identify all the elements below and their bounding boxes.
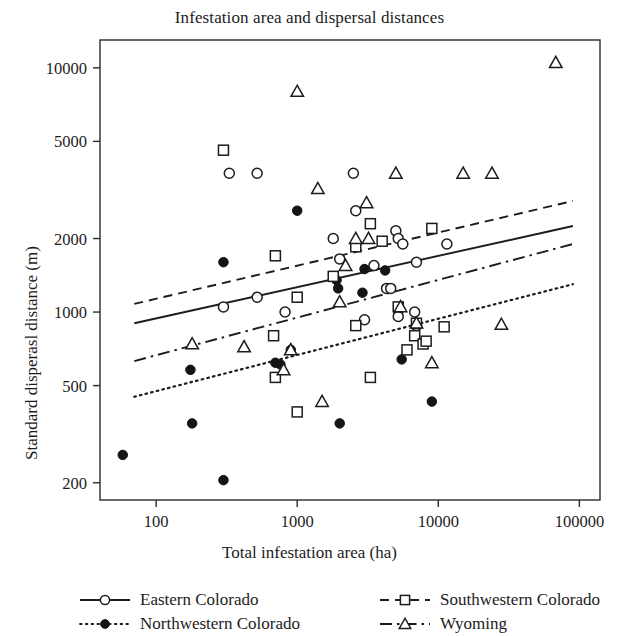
trend-line-wyoming	[134, 244, 573, 361]
legend-item-eastern-colorado[interactable]: Eastern Colorado	[78, 588, 259, 612]
svg-text:5000: 5000	[54, 132, 87, 151]
legend-key-eastern-colorado	[78, 590, 132, 610]
data-point-eastern-colorado	[348, 168, 358, 178]
plot-axes	[93, 40, 600, 507]
x-axis-label: Total infestation area (ha)	[0, 543, 619, 563]
data-point-wyoming	[186, 338, 199, 349]
data-point-southwestern-colorado	[292, 407, 302, 417]
data-point-eastern-colorado	[410, 307, 420, 317]
data-point-southwestern-colorado	[270, 251, 280, 261]
legend-key-northwestern-colorado	[78, 614, 132, 634]
data-point-eastern-colorado	[328, 234, 338, 244]
data-point-eastern-colorado	[398, 239, 408, 249]
legend-label-eastern-colorado: Eastern Colorado	[132, 590, 259, 610]
legend-item-southwestern-colorado[interactable]: Southwestern Colorado	[378, 588, 600, 612]
legend-label-northwestern-colorado: Northwestern Colorado	[132, 614, 300, 634]
data-point-northwestern-colorado	[335, 419, 345, 429]
data-point-eastern-colorado	[369, 261, 379, 271]
data-point-southwestern-colorado	[439, 322, 449, 332]
data-point-southwestern-colorado	[218, 145, 228, 155]
data-point-eastern-colorado	[218, 302, 228, 312]
data-point-wyoming	[238, 341, 251, 352]
data-point-northwestern-colorado	[187, 419, 197, 429]
data-point-wyoming	[360, 197, 373, 208]
data-point-wyoming	[457, 167, 470, 178]
data-point-southwestern-colorado	[365, 372, 375, 382]
data-points	[118, 56, 562, 484]
data-point-wyoming	[495, 318, 508, 329]
svg-text:1000: 1000	[281, 512, 314, 531]
data-point-northwestern-colorado	[118, 450, 128, 460]
data-point-northwestern-colorado	[358, 288, 368, 298]
data-point-southwestern-colorado	[292, 292, 302, 302]
legend-item-northwestern-colorado[interactable]: Northwestern Colorado	[78, 612, 300, 636]
data-point-wyoming	[316, 395, 329, 406]
data-point-eastern-colorado	[386, 283, 396, 293]
data-point-northwestern-colorado	[219, 257, 229, 267]
data-point-eastern-colorado	[252, 292, 262, 302]
data-point-southwestern-colorado	[402, 345, 412, 355]
svg-text:100000: 100000	[555, 512, 605, 531]
data-point-wyoming	[291, 85, 304, 96]
svg-text:100: 100	[144, 512, 169, 531]
data-point-southwestern-colorado	[377, 236, 387, 246]
y-axis-label: Standard disperasl distance (m)	[22, 246, 42, 460]
svg-text:1000: 1000	[54, 303, 87, 322]
data-point-wyoming	[362, 232, 375, 243]
legend-key-wyoming	[378, 614, 432, 634]
legend-label-wyoming: Wyoming	[432, 614, 507, 634]
svg-text:500: 500	[62, 377, 87, 396]
chart-legend: Eastern ColoradoNorthwestern ColoradoSou…	[78, 588, 619, 636]
data-point-southwestern-colorado	[427, 223, 437, 233]
data-point-eastern-colorado	[411, 257, 421, 267]
svg-text:2000: 2000	[54, 230, 87, 249]
data-point-southwestern-colorado	[365, 219, 375, 229]
data-point-southwestern-colorado	[269, 331, 279, 341]
data-point-northwestern-colorado	[380, 266, 390, 276]
data-point-wyoming	[350, 232, 363, 243]
data-point-wyoming	[550, 56, 563, 67]
data-point-eastern-colorado	[442, 239, 452, 249]
data-point-wyoming	[333, 296, 346, 307]
data-point-wyoming	[486, 167, 499, 178]
data-point-southwestern-colorado	[421, 336, 431, 346]
data-point-southwestern-colorado	[351, 321, 361, 331]
data-point-northwestern-colorado	[360, 264, 370, 274]
data-point-northwestern-colorado	[333, 284, 343, 294]
trend-line-northwestern-colorado	[134, 284, 573, 397]
data-point-northwestern-colorado	[427, 397, 437, 407]
data-point-eastern-colorado	[252, 168, 262, 178]
data-point-northwestern-colorado	[292, 206, 302, 216]
axis-tick-labels: 2005001000200050001000010010001000010000…	[46, 59, 604, 531]
chart-figure: Infestation area and dispersal distances…	[0, 0, 619, 636]
data-point-northwestern-colorado	[397, 355, 407, 365]
legend-label-southwestern-colorado: Southwestern Colorado	[432, 590, 600, 610]
data-point-eastern-colorado	[280, 307, 290, 317]
data-point-eastern-colorado	[224, 168, 234, 178]
data-point-northwestern-colorado	[186, 365, 196, 375]
data-point-wyoming	[390, 167, 403, 178]
data-point-eastern-colorado	[393, 311, 403, 321]
trend-lines	[134, 201, 573, 397]
svg-text:10000: 10000	[418, 512, 459, 531]
scatter-plot: 2005001000200050001000010010001000010000…	[0, 0, 619, 636]
svg-text:200: 200	[62, 474, 87, 493]
legend-key-southwestern-colorado	[378, 590, 432, 610]
data-point-southwestern-colorado	[328, 271, 338, 281]
svg-text:10000: 10000	[46, 59, 87, 78]
data-point-northwestern-colorado	[219, 475, 229, 485]
data-point-wyoming	[426, 357, 439, 368]
data-point-eastern-colorado	[351, 206, 361, 216]
legend-item-wyoming[interactable]: Wyoming	[378, 612, 507, 636]
data-point-wyoming	[312, 182, 325, 193]
